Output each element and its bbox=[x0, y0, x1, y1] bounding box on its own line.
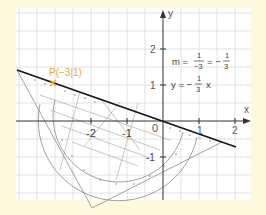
point-p-label: P(−3|1) bbox=[49, 67, 82, 78]
y-tick-label-1: 1 bbox=[150, 80, 156, 91]
slope-frac2-num: 1 bbox=[225, 51, 229, 60]
y-tick-label-2: 2 bbox=[150, 44, 156, 55]
origin-label: 0 bbox=[152, 122, 158, 134]
y-tick-label-minus1: -1 bbox=[146, 152, 155, 163]
x-axis-label: x bbox=[244, 104, 249, 115]
slope-frac1-den: −3 bbox=[194, 62, 203, 71]
x-tick-label-1: 1 bbox=[197, 125, 203, 136]
y-axis-label: y bbox=[168, 8, 173, 19]
x-tick-label-minus2: -2 bbox=[86, 127, 96, 139]
slope-frac2-den: 3 bbox=[224, 62, 228, 71]
x-tick-label-minus1: -1 bbox=[122, 127, 132, 139]
slope-m-label: m = bbox=[172, 56, 189, 67]
line-eq-var: x bbox=[206, 79, 211, 90]
slope-eq-label: = − bbox=[207, 56, 221, 67]
x-tick-label-2: 2 bbox=[232, 125, 238, 136]
coordinate-diagram: x y -2 -1 0 1 2 2 1 -1 P(−3|1) m = 1 −3 … bbox=[0, 0, 266, 215]
line-frac-den: 3 bbox=[196, 85, 200, 94]
line-eq-lhs: y = − bbox=[171, 79, 193, 90]
slope-frac1-num: 1 bbox=[197, 51, 201, 60]
line-frac-num: 1 bbox=[197, 74, 201, 83]
